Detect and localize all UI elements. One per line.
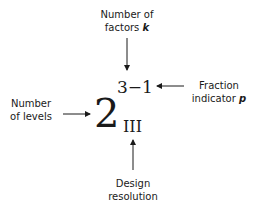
arrows	[0, 0, 254, 213]
